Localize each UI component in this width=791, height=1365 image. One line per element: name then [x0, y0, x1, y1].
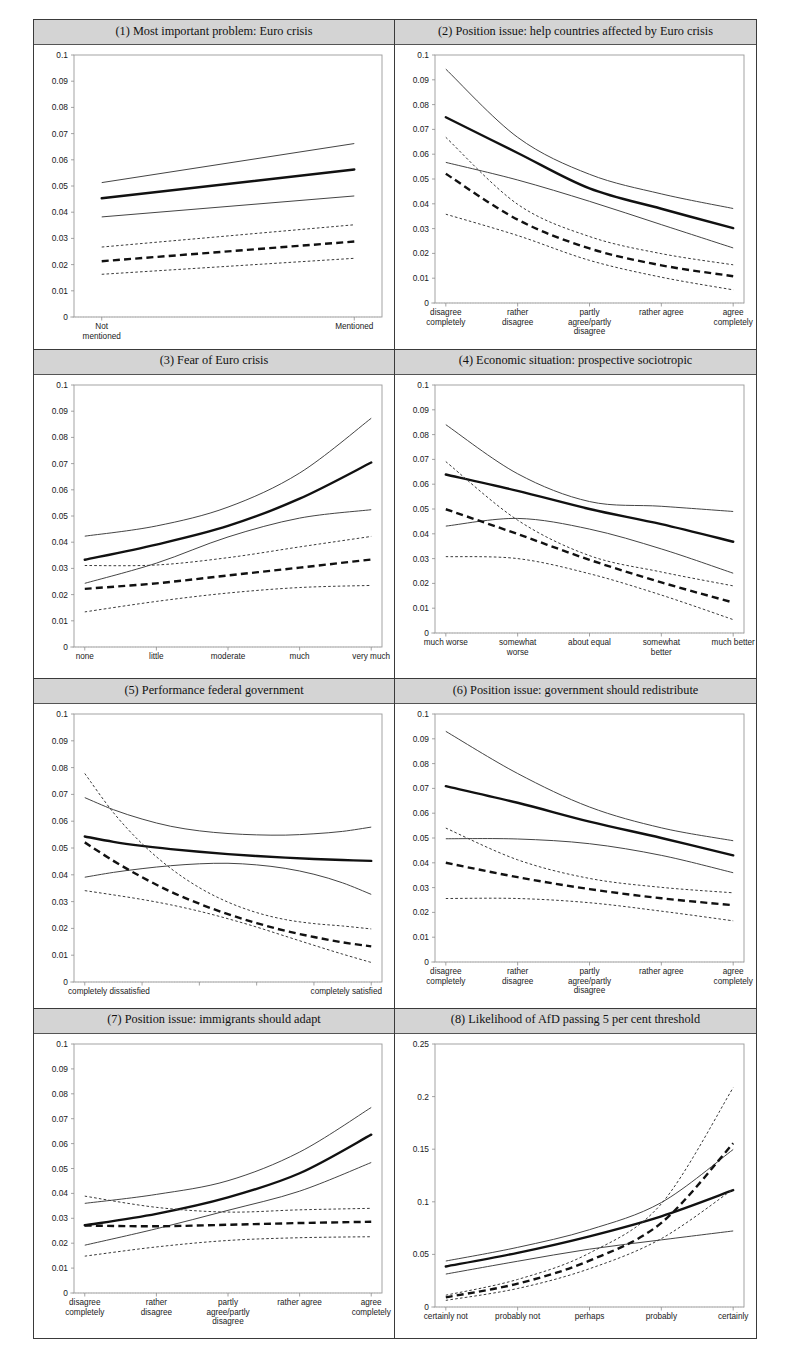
- y-axis-tick-label: 0: [63, 977, 68, 987]
- y-axis-tick-label: 0: [424, 298, 429, 308]
- y-axis-tick-label: 0.02: [413, 248, 430, 258]
- series-line: [102, 196, 355, 217]
- panel-2: (2) Position issue: help countries affec…: [395, 20, 756, 350]
- y-axis-tick-label: 0.05: [52, 843, 69, 853]
- x-axis-tick-label: very much: [352, 652, 390, 661]
- series-line: [102, 144, 355, 183]
- x-axis-tick-label: disagree: [502, 977, 534, 986]
- y-axis-tick-label: 0.08: [52, 763, 69, 773]
- x-axis-tick-label: completely: [352, 1307, 392, 1316]
- y-axis-tick-label: 0: [424, 628, 429, 638]
- x-axis-tick-label: rather: [507, 308, 529, 317]
- x-axis-tick-label: agree/partly: [568, 977, 612, 986]
- x-axis-tick-label: probably: [646, 1312, 678, 1321]
- y-axis-tick-label: 0.1: [417, 380, 429, 390]
- panel-4-plot: 00.010.020.030.040.050.060.070.080.090.1…: [395, 375, 756, 679]
- series-line: [446, 214, 733, 290]
- x-axis-tick-label: disagree: [141, 1307, 173, 1316]
- y-axis-tick-label: 0.05: [413, 1249, 430, 1259]
- y-axis-tick-label: 0.03: [413, 224, 430, 234]
- x-axis-tick-label: agree: [361, 1298, 382, 1307]
- y-axis-tick-label: 0.07: [413, 124, 430, 134]
- panel-7: (7) Position issue: immigrants should ad…: [34, 1009, 395, 1339]
- series-line: [85, 559, 371, 588]
- series-line: [446, 828, 733, 893]
- series-line: [85, 585, 371, 611]
- y-axis-tick-label: 0.01: [52, 286, 69, 296]
- y-axis-tick-label: 0.01: [413, 273, 430, 283]
- y-axis-tick-label: 0.09: [413, 734, 430, 744]
- y-axis-tick-label: 0.2: [417, 1091, 429, 1101]
- x-axis-tick-label: disagree: [502, 318, 534, 327]
- x-axis-tick-label: partly: [579, 308, 600, 317]
- x-axis-tick-label: much better: [712, 638, 756, 647]
- x-axis-tick-label: disagree: [69, 1298, 101, 1307]
- series-line: [446, 556, 733, 619]
- series-line: [85, 891, 371, 963]
- y-axis-tick-label: 0.05: [52, 181, 69, 191]
- y-axis-tick-label: 0.06: [52, 484, 69, 494]
- series-line: [102, 242, 355, 262]
- x-axis-tick-label: much worse: [424, 638, 469, 647]
- y-axis-tick-label: 0.02: [52, 1238, 69, 1248]
- y-axis-tick-label: 0.06: [52, 155, 69, 165]
- y-axis-tick-label: 0.07: [52, 1113, 69, 1123]
- panel-1-title: (1) Most important problem: Euro crisis: [34, 20, 394, 45]
- panel-5: (5) Performance federal government 00.01…: [34, 679, 395, 1009]
- x-axis-tick-label: completely: [714, 318, 754, 327]
- y-axis-tick-label: 0.04: [52, 537, 69, 547]
- y-axis-tick-label: 0.25: [413, 1039, 430, 1049]
- y-axis-tick-label: 0: [63, 312, 68, 322]
- y-axis-tick-label: 0.01: [52, 615, 69, 625]
- series-line: [85, 418, 371, 536]
- series-line: [446, 162, 733, 248]
- y-axis-tick-label: 0.05: [413, 833, 430, 843]
- y-axis-tick-label: 0.06: [413, 479, 430, 489]
- y-axis-tick-label: 0.15: [413, 1144, 430, 1154]
- series-line: [85, 842, 371, 946]
- x-axis-tick-label: agree/partly: [568, 318, 612, 327]
- y-axis-tick-label: 0: [63, 1288, 68, 1298]
- panel-3-plot: 00.010.020.030.040.050.060.070.080.090.1…: [34, 375, 394, 679]
- y-axis-tick-label: 0.08: [413, 759, 430, 769]
- y-axis-tick-label: 0.09: [52, 1063, 69, 1073]
- series-line: [446, 424, 733, 511]
- x-axis-tick-label: disagree: [574, 327, 606, 336]
- y-axis-tick-label: 0.02: [413, 578, 430, 588]
- panel-6: (6) Position issue: government should re…: [395, 679, 756, 1009]
- y-axis-tick-label: 0.02: [52, 923, 69, 933]
- x-axis-tick-label: disagree: [574, 986, 606, 995]
- y-axis-tick-label: 0.02: [413, 907, 430, 917]
- series-line: [85, 773, 371, 928]
- y-axis-tick-label: 0.08: [52, 432, 69, 442]
- y-axis-tick-label: 0.09: [52, 76, 69, 86]
- panel-6-plot: 00.010.020.030.040.050.060.070.080.090.1…: [395, 704, 756, 1008]
- y-axis-tick-label: 0.04: [413, 858, 430, 868]
- y-axis-tick-label: 0.08: [413, 429, 430, 439]
- series-line: [446, 731, 733, 840]
- x-axis-tick-label: about equal: [568, 638, 611, 647]
- y-axis-tick-label: 0.04: [413, 528, 430, 538]
- panel-5-title: (5) Performance federal government: [34, 679, 394, 704]
- y-axis-tick-label: 0.1: [417, 50, 429, 60]
- x-axis-tick-label: somewhat: [499, 638, 537, 647]
- y-axis-tick-label: 0.06: [413, 808, 430, 818]
- series-line: [446, 786, 733, 855]
- x-axis-tick-label: disagree: [430, 308, 462, 317]
- y-axis-tick-label: 0.05: [413, 174, 430, 184]
- y-axis-tick-label: 0.01: [413, 932, 430, 942]
- series-line: [85, 836, 371, 860]
- y-axis-tick-label: 0.01: [52, 950, 69, 960]
- series-line: [102, 258, 355, 274]
- x-axis-tick-label: agree: [723, 967, 744, 976]
- y-axis-tick-label: 0.07: [413, 783, 430, 793]
- panel-4-title: (4) Economic situation: prospective soci…: [395, 350, 756, 375]
- x-axis-tick-label: little: [149, 652, 164, 661]
- y-axis-tick-label: 0.1: [56, 709, 68, 719]
- series-line: [446, 1087, 733, 1295]
- panel-grid: (1) Most important problem: Euro crisis …: [33, 19, 757, 1339]
- x-axis-tick-label: completely: [714, 977, 754, 986]
- y-axis-tick-label: 0.1: [56, 50, 68, 60]
- panel-1: (1) Most important problem: Euro crisis …: [34, 20, 395, 350]
- y-axis-tick-label: 0.06: [413, 149, 430, 159]
